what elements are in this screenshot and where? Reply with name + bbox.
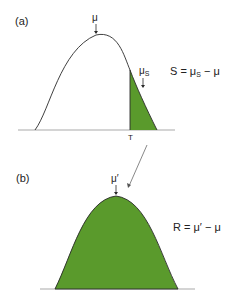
selected-mean-subscript: S [145, 70, 150, 77]
panel-b-label: (b) [16, 173, 29, 184]
selected-mean-label: μS [139, 66, 149, 77]
connecting-arrow-head [127, 183, 131, 188]
distribution-curve-b [55, 196, 178, 289]
equation-rhs: − μ [201, 65, 220, 77]
connecting-arrow [129, 145, 147, 186]
diagram-canvas [0, 0, 236, 303]
equation-lhs: S = μ [170, 65, 196, 77]
threshold-label: T [128, 134, 133, 142]
panel-a-label: (a) [15, 16, 28, 27]
mean-arrow-head-a [94, 31, 98, 34]
mean-arrow-head-b [114, 192, 118, 195]
mean-label-b: μ′ [111, 174, 119, 184]
mean-label-a: μ [92, 13, 98, 23]
selected-mean-arrow-head [141, 85, 145, 88]
selection-differential-equation: S = μS − μ [170, 66, 220, 78]
response-equation: R = μ′ − μ [173, 222, 221, 233]
